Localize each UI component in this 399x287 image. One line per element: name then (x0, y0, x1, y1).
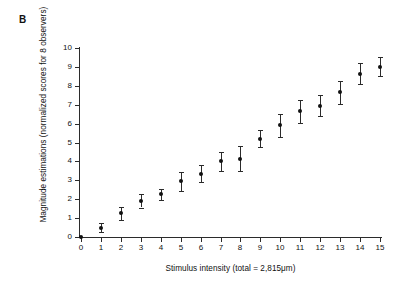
y-tick (75, 199, 79, 200)
y-tick-label: 9 (58, 63, 72, 71)
y-tick (75, 105, 79, 106)
data-point (278, 123, 282, 127)
data-point (139, 199, 143, 203)
y-tick-label: 8 (58, 82, 72, 90)
error-bar-cap (378, 76, 383, 77)
x-tick (260, 238, 261, 242)
y-tick-label: 4 (58, 157, 72, 165)
error-bar-cap (199, 182, 204, 183)
y-tick-label: 6 (58, 120, 72, 128)
error-bar-cap (278, 114, 283, 115)
error-bar-cap (318, 116, 323, 117)
x-tick (340, 238, 341, 242)
plot-area: 012345678910 0123456789101112131415 (0, 0, 399, 287)
x-tick-label: 14 (353, 244, 367, 252)
x-tick-label: 0 (74, 244, 88, 252)
x-tick-label: 5 (174, 244, 188, 252)
y-tick-label: 10 (58, 44, 72, 52)
error-bar-cap (99, 223, 104, 224)
y-tick (75, 67, 79, 68)
error-bar-cap (119, 220, 124, 221)
x-tick-label: 2 (114, 244, 128, 252)
data-point (119, 211, 123, 215)
x-tick-label: 3 (134, 244, 148, 252)
data-point (79, 235, 83, 239)
error-bar-cap (159, 200, 164, 201)
x-tick-label: 1 (94, 244, 108, 252)
y-tick-label: 5 (58, 139, 72, 147)
data-point (199, 172, 203, 176)
data-point (298, 109, 302, 113)
error-bar-cap (298, 123, 303, 124)
y-tick-label: 7 (58, 101, 72, 109)
x-tick-label: 11 (293, 244, 307, 252)
x-tick (240, 238, 241, 242)
x-tick (300, 238, 301, 242)
error-bar-cap (358, 84, 363, 85)
error-bar-cap (298, 100, 303, 101)
x-axis-line (79, 237, 382, 238)
error-bar-cap (278, 137, 283, 138)
x-tick-label: 6 (194, 244, 208, 252)
y-tick (75, 124, 79, 125)
data-point (179, 179, 183, 183)
data-point (338, 90, 342, 94)
x-tick-label: 13 (333, 244, 347, 252)
y-tick-label: 0 (58, 233, 72, 241)
x-tick (121, 238, 122, 242)
x-tick (221, 238, 222, 242)
y-tick-label: 2 (58, 195, 72, 203)
y-tick-label: 1 (58, 214, 72, 222)
error-bar-cap (238, 146, 243, 147)
y-tick-label: 3 (58, 176, 72, 184)
y-tick (75, 180, 79, 181)
x-tick (181, 238, 182, 242)
y-tick (75, 86, 79, 87)
data-point (258, 137, 262, 141)
x-tick (280, 238, 281, 242)
x-axis-title: Stimulus intensity (total = 2,815μm) (81, 264, 380, 273)
x-tick-label: 4 (154, 244, 168, 252)
x-tick (320, 238, 321, 242)
error-bar-cap (378, 57, 383, 58)
y-tick (75, 161, 79, 162)
y-tick (75, 48, 79, 49)
error-bar-cap (139, 194, 144, 195)
x-tick (141, 238, 142, 242)
error-bar-cap (258, 147, 263, 148)
data-point (318, 104, 322, 108)
data-point (159, 192, 163, 196)
error-bar-cap (318, 95, 323, 96)
x-tick (161, 238, 162, 242)
error-bar-cap (179, 191, 184, 192)
data-point (378, 65, 382, 69)
x-tick (360, 238, 361, 242)
x-tick-label: 12 (313, 244, 327, 252)
error-bar-cap (338, 81, 343, 82)
x-tick-label: 15 (373, 244, 387, 252)
error-bar-cap (119, 207, 124, 208)
error-bar-cap (358, 63, 363, 64)
data-point (99, 226, 103, 230)
error-bar-cap (139, 208, 144, 209)
error-bar-cap (258, 130, 263, 131)
data-point (358, 72, 362, 76)
y-axis-line (79, 47, 80, 238)
error-bar-cap (179, 172, 184, 173)
error-bar-cap (238, 171, 243, 172)
error-bar-cap (219, 152, 224, 153)
x-tick (101, 238, 102, 242)
figure-panel: B Magnitude estimations (normalized scor… (0, 0, 399, 287)
x-tick-label: 9 (253, 244, 267, 252)
x-tick (380, 238, 381, 242)
data-point (238, 157, 242, 161)
x-tick-label: 7 (214, 244, 228, 252)
x-tick (201, 238, 202, 242)
error-bar-cap (219, 171, 224, 172)
y-tick (75, 143, 79, 144)
error-bar-cap (338, 104, 343, 105)
error-bar-cap (199, 165, 204, 166)
y-tick (75, 218, 79, 219)
x-tick-label: 10 (273, 244, 287, 252)
x-tick-label: 8 (233, 244, 247, 252)
